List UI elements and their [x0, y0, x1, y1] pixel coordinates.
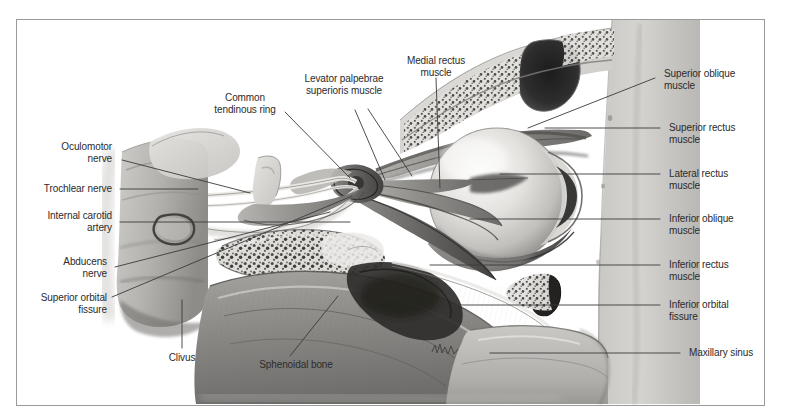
label-trochlear-nerve: Trochlear nerve	[8, 183, 112, 195]
label-inferior-orbital-fissure: Inferior orbital fissure	[669, 299, 781, 322]
leader-common-tendinous-ring	[285, 112, 350, 178]
label-clivus: Clivus	[152, 352, 212, 364]
label-maxillary-sinus: Maxillary sinus	[689, 347, 785, 359]
label-internal-carotid-artery: Internal carotid artery	[8, 210, 112, 233]
label-superior-oblique-muscle: Superior oblique muscle	[664, 68, 776, 91]
anatomy-figure: Oculomotor nerve Trochlear nerve Interna…	[0, 0, 785, 419]
label-abducens-nerve: Abducens nerve	[8, 256, 107, 279]
label-lateral-rectus-muscle: Lateral rectus muscle	[669, 168, 781, 191]
label-inferior-oblique-muscle: Inferior oblique muscle	[669, 213, 781, 236]
label-medial-rectus-muscle: Medial rectus muscle	[390, 55, 482, 78]
label-levator-palpebrae: Levator palpebrae superioris muscle	[291, 73, 397, 96]
label-oculomotor-nerve: Oculomotor nerve	[12, 141, 112, 164]
label-superior-rectus-muscle: Superior rectus muscle	[669, 122, 781, 145]
label-superior-orbital-fissure: Superior orbital fissure	[6, 292, 107, 315]
label-common-tendinous-ring: Common tendinous ring	[200, 92, 290, 115]
label-inferior-rectus-muscle: Inferior rectus muscle	[669, 259, 781, 282]
label-sphenoidal-bone: Sphenoidal bone	[246, 359, 346, 371]
